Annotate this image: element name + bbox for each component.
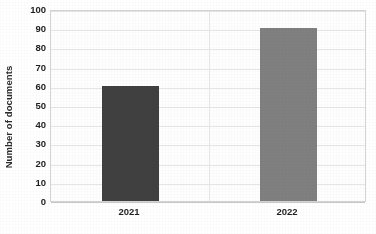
gridline-horizontal — [51, 126, 365, 127]
y-axis-tick-label: 80 — [35, 44, 46, 54]
y-axis-tick-label: 70 — [35, 63, 46, 73]
gridline-vertical — [209, 11, 210, 201]
gridline-horizontal — [51, 145, 365, 146]
gridline-horizontal — [51, 11, 365, 12]
y-axis-tick-label: 40 — [35, 120, 46, 130]
gridline-horizontal — [51, 184, 365, 185]
bar-chart: Number of documents 10090807060504030201… — [0, 0, 376, 234]
y-axis-tick-label: 50 — [35, 101, 46, 111]
y-axis-tick-labels: 1009080706050403020100 — [14, 10, 46, 202]
gridline-horizontal — [51, 69, 365, 70]
gridline-horizontal — [51, 30, 365, 31]
y-axis-tick-label: 10 — [35, 178, 46, 188]
gridline-horizontal — [51, 107, 365, 108]
gridline-horizontal — [51, 165, 365, 166]
y-axis-tick-label: 100 — [30, 5, 46, 15]
bar-2021 — [102, 86, 159, 201]
gridline-horizontal — [51, 49, 365, 50]
bar-2022 — [260, 28, 317, 201]
y-axis-tick-label: 90 — [35, 24, 46, 34]
x-axis-tick-label: 2021 — [118, 206, 139, 217]
y-axis-tick-label: 20 — [35, 159, 46, 169]
y-axis-tick-label: 0 — [41, 197, 46, 207]
y-axis-tick-label: 60 — [35, 82, 46, 92]
gridline-horizontal — [51, 202, 365, 203]
gridline-horizontal — [51, 88, 365, 89]
plot-area — [50, 10, 366, 202]
x-axis-tick-labels: 20212022 — [50, 206, 366, 226]
y-axis-tick-label: 30 — [35, 140, 46, 150]
x-axis-tick-label: 2022 — [276, 206, 297, 217]
